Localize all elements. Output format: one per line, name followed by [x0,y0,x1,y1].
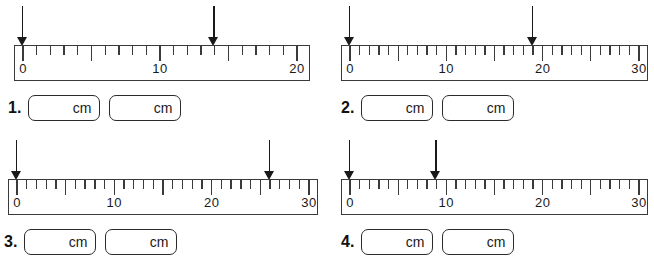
ruler-tick [465,180,466,189]
ruler-tick-label: 0 [346,196,354,210]
ruler-tick-label: 0 [13,196,21,210]
measurement-arrow-2-icon [208,6,219,46]
ruler-tick [359,180,360,189]
ruler-tick [503,46,504,55]
ruler-tick [503,180,504,189]
ruler-tick [255,46,256,55]
ruler-tick [561,180,562,189]
answer-row: 2.cmcm [341,95,523,121]
ruler-tick [114,180,115,195]
ruler-tick [182,180,183,189]
ruler: 0102030 [341,179,648,215]
problem-2: 01020302.cmcm [327,0,654,134]
ruler-tick-label: 10 [152,62,167,76]
ruler-tick [283,46,284,55]
ruler-tick [279,180,280,189]
ruler-tick-label: 20 [289,62,304,76]
ruler-tick [571,46,572,55]
ruler-tick-label: 20 [535,62,550,76]
ruler-tick [211,180,212,195]
ruler-tick [523,180,524,189]
answer-box-1[interactable]: cm [361,95,433,121]
arrow-layer [327,0,654,47]
ruler-tick [590,46,591,61]
answer-box-1[interactable]: cm [28,95,100,121]
ruler-tick [46,180,47,189]
ruler-tick [172,180,173,189]
ruler-tick [105,46,106,55]
ruler-tick [228,46,229,61]
ruler-tick [552,46,553,55]
ruler-tick [369,180,370,189]
ruler-tick [359,46,360,55]
ruler-tick [84,180,85,189]
ruler-tick [407,46,408,55]
ruler-tick [75,180,76,189]
ruler-tick [494,46,495,61]
ruler-tick [299,180,300,189]
ruler-tick [349,180,350,195]
ruler-tick [159,46,160,61]
problem-3: 01020303.cmcm [0,135,327,269]
ruler-tick [118,46,119,55]
arrow-layer [327,135,654,181]
ruler-tick [609,46,610,55]
arrow-layer [0,0,327,47]
item-number: 1. [8,100,21,116]
ruler-tick [289,180,290,189]
ruler-tick [94,180,95,189]
ruler-tick-label: 10 [107,196,122,210]
ruler-tick [629,46,630,55]
ruler-tick [619,46,620,55]
answer-box-1[interactable]: cm [361,229,433,255]
ruler-tick-label: 20 [204,196,219,210]
measurement-arrow-2-icon [527,6,538,46]
ruler-tick [446,46,447,61]
answer-box-2[interactable]: cm [109,95,181,121]
ruler-tick [388,180,389,189]
answer-box-2[interactable]: cm [442,229,514,255]
ruler-tick-label: 0 [19,62,27,76]
measurement-arrow-1-icon [344,140,355,180]
ruler-tick [484,46,485,55]
ruler-tick [609,180,610,189]
ruler-tick [296,46,297,61]
measurement-arrow-2-icon [264,140,275,180]
ruler-tick [436,180,437,189]
ruler-tick [250,180,251,189]
ruler-tick [417,46,418,55]
ruler-scale: 0102030 [342,46,647,80]
measurement-arrow-2-icon [430,140,441,180]
measurement-arrow-1-icon [344,6,355,46]
ruler-tick [269,180,270,189]
answer-box-1[interactable]: cm [24,229,96,255]
ruler-tick [600,180,601,189]
ruler-tick [513,46,514,55]
unit-label: cm [69,234,88,250]
ruler-tick-label: 0 [346,62,354,76]
ruler-scale: 0102030 [342,180,647,214]
answer-box-2[interactable]: cm [105,229,177,255]
answer-row: 3.cmcm [4,229,186,255]
ruler-tick-label: 30 [631,62,646,76]
ruler-tick [22,46,23,61]
ruler-tick [629,180,630,189]
measurement-worksheet: 010201.cmcm01020302.cmcm01020303.cmcm010… [0,0,654,269]
ruler-tick [201,180,202,189]
ruler-tick [91,46,92,61]
ruler-tick [475,180,476,189]
ruler-tick [398,180,399,195]
ruler-tick [532,180,533,189]
ruler-tick [581,180,582,189]
ruler-tick [590,180,591,195]
ruler-tick [349,46,350,61]
unit-label: cm [406,234,425,250]
ruler-tick [513,180,514,189]
ruler-tick [162,180,163,195]
answer-box-2[interactable]: cm [442,95,514,121]
ruler-tick [123,180,124,189]
ruler-tick [484,180,485,189]
arrow-layer [0,135,327,181]
ruler-tick [132,46,133,55]
item-number: 3. [4,234,17,250]
